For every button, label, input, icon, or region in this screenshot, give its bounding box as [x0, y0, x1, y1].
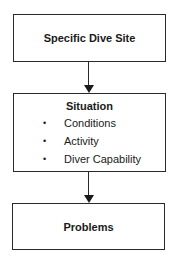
- bullet-icon: •: [43, 114, 46, 132]
- bullet-icon: •: [43, 132, 46, 150]
- situation-list: •Conditions •Activity •Diver Capability: [14, 114, 165, 168]
- list-item-label: Conditions: [64, 117, 116, 129]
- bullet-icon: •: [43, 150, 46, 168]
- problems-box: Problems: [12, 203, 165, 250]
- list-item: •Conditions: [14, 114, 165, 132]
- list-item: •Activity: [14, 132, 165, 150]
- connector-line-2: [88, 172, 89, 195]
- list-item-label: Diver Capability: [64, 153, 141, 165]
- situation-title: Situation: [14, 100, 165, 112]
- specific-dive-site-title: Specific Dive Site: [44, 32, 136, 44]
- specific-dive-site-box: Specific Dive Site: [13, 14, 166, 62]
- arrow-down-icon: [84, 195, 94, 203]
- connector-line-1: [88, 62, 89, 85]
- list-item-label: Activity: [64, 135, 99, 147]
- arrow-down-icon: [84, 85, 94, 93]
- situation-box: Situation •Conditions •Activity •Diver C…: [13, 93, 166, 172]
- list-item: •Diver Capability: [14, 150, 165, 168]
- problems-title: Problems: [63, 221, 113, 233]
